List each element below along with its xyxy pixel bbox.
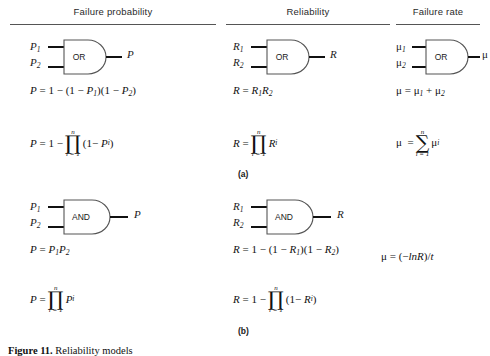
and-gate-reliability: AND <box>251 198 351 238</box>
gate-input-label-p2: P2 <box>30 56 41 70</box>
gate-output-label-p: P <box>127 48 134 60</box>
gate-output-label-r: R <box>330 48 337 60</box>
header-rule-2 <box>226 24 390 25</box>
part-label-b: (b) <box>238 326 249 336</box>
gate-input-label-p1: P1 <box>30 40 41 54</box>
column-header-failure-probability: Failure probability <box>10 6 216 17</box>
formula-b-reliability-1: R = 1 − (1 − R1)(1 − R2) <box>233 243 339 257</box>
gate-input-label-r1: R1 <box>233 200 244 214</box>
formula-b-failure-probability-1: P = P1P2 <box>30 243 70 257</box>
gate-input-label-mu1: μ1 <box>396 40 406 54</box>
header-rule-1 <box>10 24 216 25</box>
gate-input-label-r1: R1 <box>233 40 244 54</box>
formula-a-failure-probability-1: P = 1 − (1 − P1)(1 − P2) <box>30 84 136 98</box>
gate-input-label-p2: P2 <box>30 216 41 230</box>
gate-input-label-r2: R2 <box>233 216 244 230</box>
or-gate-failure-rate: OR <box>412 38 490 78</box>
formula-a-failure-rate-2: μ = n ∑ i = 1 μi <box>396 128 439 157</box>
formula-a-reliability-2: R = n ∏ i = 1 Ri <box>233 128 277 157</box>
gate-output-label-p: P <box>134 208 141 220</box>
column-header-failure-rate: Failure rate <box>396 6 480 17</box>
gate-input-label-r2: R2 <box>233 56 244 70</box>
product-operator: n ∏ i = 1 <box>65 129 81 158</box>
header-rule-3 <box>396 24 480 25</box>
part-label-a: (a) <box>238 169 248 179</box>
gate-output-label-mu: μ <box>482 48 488 60</box>
column-header-reliability: Reliability <box>226 6 390 17</box>
figure-caption: Figure 11. Reliability models <box>8 345 133 356</box>
column-header-label: Reliability <box>287 6 330 17</box>
formula-a-failure-probability-2: P = 1 − n ∏ i = 1 (1 − Pi) <box>30 128 114 157</box>
formula-a-reliability-1: R = R1R2 <box>233 84 273 98</box>
product-operator: n ∏ i = 1 <box>268 285 284 314</box>
gate-type-label: AND <box>72 212 90 222</box>
formula-b-failure-probability-2: P = n ∏ i = 1 Pi <box>30 284 74 313</box>
column-header-label: Failure probability <box>74 6 153 17</box>
column-header-label: Failure rate <box>413 6 463 17</box>
formula-b-failure-rate-1: μ = (−lnR)/t <box>381 250 434 262</box>
summation-operator: n ∑ i = 1 <box>416 129 430 158</box>
product-operator: n ∏ i = 1 <box>48 285 64 314</box>
and-gate-failure-probability: AND <box>48 198 148 238</box>
gate-input-label-p1: P1 <box>30 200 41 214</box>
gate-type-label: OR <box>276 52 289 62</box>
product-operator: n ∏ i = 1 <box>251 129 267 158</box>
gate-output-label-r: R <box>337 208 344 220</box>
figure-caption-label: Figure 11. <box>8 345 53 356</box>
gate-type-label: AND <box>275 212 293 222</box>
formula-b-reliability-2: R = 1 − n ∏ i = 1 (1 − Ri) <box>233 284 317 313</box>
gate-type-label: OR <box>435 52 448 62</box>
gate-type-label: OR <box>73 52 86 62</box>
gate-input-label-mu2: μ2 <box>396 56 406 70</box>
figure-caption-text: Reliability models <box>55 345 132 356</box>
formula-a-failure-rate-1: μ = μ1 + μ2 <box>396 84 445 98</box>
